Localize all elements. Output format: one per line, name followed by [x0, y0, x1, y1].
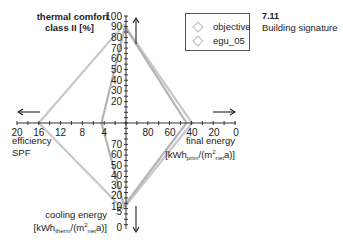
left-tick-label: 12: [55, 127, 67, 138]
figure-caption: 7.11 Building signature: [262, 10, 338, 34]
top-tick-label: 50: [111, 64, 123, 75]
top-axis-title-2: class II [%]: [45, 22, 94, 33]
figure-title: Building signature: [262, 22, 338, 34]
top-axis-title-1: thermal comfort: [37, 11, 110, 22]
legend-label: egu_05: [213, 35, 245, 46]
top-tick-label: 60: [111, 53, 123, 64]
bottom-tick-label: 5: [116, 206, 122, 217]
left-axis-title-1: efficiency: [12, 135, 52, 146]
left-tick-label: 8: [80, 127, 86, 138]
top-tick-label: 70: [111, 43, 123, 54]
bottom-tick-label: 60: [111, 149, 123, 160]
legend-item-objective: objective: [194, 21, 251, 32]
legend-label: objective: [213, 21, 251, 32]
top-tick-label: 20: [111, 96, 123, 107]
left-axis-title-2: SPF: [12, 147, 31, 158]
legend: objective egu_05: [185, 13, 250, 51]
left-tick-label: 4: [101, 127, 107, 138]
figure-number: 7.11: [262, 10, 338, 22]
bottom-tick-label: 20: [111, 190, 123, 201]
top-tick-label: 90: [111, 21, 123, 32]
top-tick-label: 80: [111, 32, 123, 43]
bottom-axis-title-2: [kWhtherm/(m2neta)]: [34, 222, 107, 234]
right-tick-label: 60: [164, 127, 176, 138]
right-tick-label: 80: [142, 127, 154, 138]
legend-item-egu05: egu_05: [194, 35, 245, 46]
arrow-right-icon: [213, 109, 235, 115]
top-tick-label: 40: [111, 75, 123, 86]
arrow-down-icon: [133, 206, 139, 232]
right-axis-title-1: final energy: [186, 135, 235, 146]
diamond-marker-icon: [192, 21, 203, 32]
top-tick-label: 30: [111, 85, 123, 96]
radar-chart: 1009080706050403020 7060504030201050 201…: [0, 0, 343, 248]
bottom-axis-title-1: cooling energy: [45, 209, 107, 220]
diamond-marker-icon: [192, 35, 203, 46]
right-axis-title-2: [kWhprim/(m2neta)]: [165, 149, 235, 161]
bottom-tick-label: 0: [116, 222, 122, 233]
arrow-left-icon: [18, 109, 40, 115]
